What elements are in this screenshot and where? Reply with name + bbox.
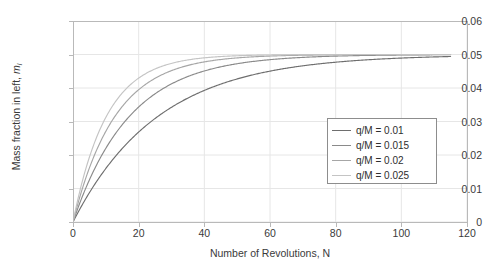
- legend-item[interactable]: q/M = 0.01: [332, 123, 431, 138]
- y-axis-title-symbol: m: [10, 65, 22, 74]
- y-tick-mark: [69, 122, 73, 123]
- x-tick-label: 40: [184, 228, 224, 239]
- legend-label: q/M = 0.015: [356, 141, 409, 151]
- legend-line-swatch: [332, 145, 351, 146]
- x-tick-mark: [139, 223, 140, 227]
- x-tick-mark: [467, 223, 468, 227]
- x-axis-title: Number of Revolutions, N: [73, 247, 467, 259]
- x-tick-label: 0: [53, 228, 93, 239]
- y-tick-label: 0.04: [420, 83, 482, 93]
- x-tick-mark: [401, 223, 402, 227]
- y-tick-label: 0.05: [420, 50, 482, 60]
- legend-line-swatch: [332, 175, 351, 176]
- legend: q/M = 0.01q/M = 0.015q/M = 0.02q/M = 0.0…: [327, 118, 437, 184]
- plot-top-border: [73, 21, 468, 22]
- y-tick-mark: [69, 155, 73, 156]
- y-tick-mark: [69, 21, 73, 22]
- x-tick-mark: [336, 223, 337, 227]
- y-tick-label: 0.06: [420, 16, 482, 26]
- x-tick-label: 120: [447, 228, 487, 239]
- x-tick-mark: [204, 223, 205, 227]
- y-tick-label: 0.01: [420, 184, 482, 194]
- x-tick-mark: [270, 223, 271, 227]
- legend-label: q/M = 0.02: [356, 156, 404, 166]
- y-tick-mark: [69, 88, 73, 89]
- legend-label: q/M = 0.025: [356, 171, 409, 181]
- legend-label: q/M = 0.01: [356, 126, 404, 136]
- y-tick-mark: [69, 55, 73, 56]
- legend-line-swatch: [332, 160, 351, 161]
- x-tick-label: 80: [316, 228, 356, 239]
- x-tick-label: 100: [381, 228, 421, 239]
- legend-item[interactable]: q/M = 0.015: [332, 138, 431, 153]
- y-axis-title: Mass fraction in left, ml: [10, 17, 24, 217]
- y-tick-label: 0: [420, 217, 482, 227]
- legend-line-swatch: [332, 130, 351, 131]
- y-axis-title-text: Mass fraction in left,: [10, 74, 22, 170]
- x-tick-label: 20: [119, 228, 159, 239]
- x-tick-mark: [73, 223, 74, 227]
- x-tick-label: 60: [250, 228, 290, 239]
- legend-item[interactable]: q/M = 0.02: [332, 153, 431, 168]
- y-axis-title-subscript: l: [15, 64, 24, 66]
- legend-item[interactable]: q/M = 0.025: [332, 168, 431, 183]
- y-tick-mark: [69, 189, 73, 190]
- y-axis-line: [73, 21, 74, 223]
